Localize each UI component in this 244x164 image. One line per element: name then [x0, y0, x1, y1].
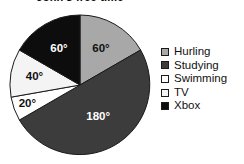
pie-slice-label-swimming: 20°: [19, 97, 37, 109]
legend-item-label: Studying: [174, 60, 219, 72]
legend-item-label: Swimming: [174, 73, 227, 85]
pie-slice-label-hurling: 60°: [92, 42, 110, 54]
pie-slice-label-tv: 40°: [26, 70, 44, 82]
legend-item-swimming: Swimming: [161, 72, 243, 86]
pie-slice-label-studying: 180°: [86, 110, 110, 122]
pie-svg: 60°180°20°40°60°: [9, 14, 151, 156]
chart-title: John's free time: [0, 0, 160, 3]
legend-swatch-icon: [161, 89, 169, 97]
pie-slice-label-xbox: 60°: [50, 42, 68, 54]
legend-item-tv: TV: [161, 86, 243, 100]
pie-slice-group: [10, 15, 150, 155]
legend-item-hurling: Hurling: [161, 45, 243, 59]
legend-swatch-icon: [161, 102, 169, 110]
legend-item-label: TV: [174, 87, 189, 99]
legend-item-studying: Studying: [161, 59, 243, 73]
legend-swatch-icon: [161, 48, 169, 56]
pie-chart: 60°180°20°40°60°: [9, 14, 151, 156]
chart-figure: John's free time 60°180°20°40°60° Hurlin…: [0, 0, 244, 164]
legend-item-label: Xbox: [174, 100, 200, 112]
chart-legend: HurlingStudyingSwimmingTVXbox: [161, 45, 243, 113]
legend-item-label: Hurling: [174, 46, 210, 58]
legend-swatch-icon: [161, 75, 169, 83]
legend-swatch-icon: [161, 61, 169, 69]
legend-item-xbox: Xbox: [161, 99, 243, 113]
